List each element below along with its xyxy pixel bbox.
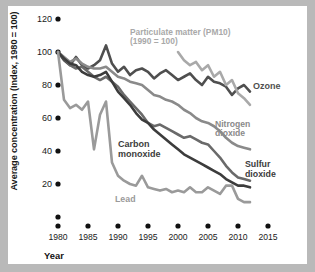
x-tick-dot: [115, 223, 120, 228]
x-tick-dot: [145, 223, 150, 228]
y-tick-dot: [55, 115, 60, 120]
chart-figure: Average concentration (Index, 1980 = 100…: [0, 0, 315, 272]
y-tick-dot: [55, 214, 60, 219]
x-tick-dot: [205, 223, 210, 228]
x-tick-dot: [55, 223, 60, 228]
y-tick-dot: [55, 82, 60, 87]
y-tick-dot: [55, 16, 60, 21]
series-line-nitrogen-dioxide: [58, 52, 250, 149]
x-tick-dot: [85, 223, 90, 228]
x-tick-dot: [235, 223, 240, 228]
y-tick-dot: [55, 181, 60, 186]
series-lines: [58, 45, 250, 202]
x-tick-dot: [175, 223, 180, 228]
y-tick-dot: [55, 148, 60, 153]
chart-plot-area: [0, 0, 315, 272]
x-tick-dot: [265, 223, 270, 228]
series-line-particulate-matter-pm10: [178, 52, 250, 105]
